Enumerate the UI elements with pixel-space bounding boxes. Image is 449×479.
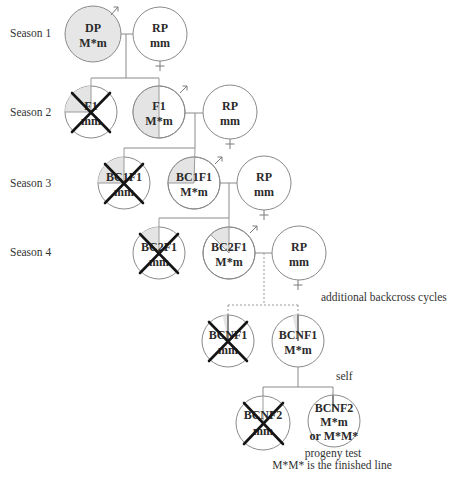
additional-backcross-label: additional backcross cycles xyxy=(321,291,447,304)
node-bcnf2-selected: BCNF2 M*m or M*M* xyxy=(308,395,360,447)
node-line2: M*m xyxy=(320,415,347,429)
season-3-label: Season 3 xyxy=(10,177,51,189)
male-symbol-icon xyxy=(111,7,118,15)
node-line1: RP xyxy=(222,99,238,113)
node-rp-s1: RP mm xyxy=(133,7,187,71)
node-line2: mm xyxy=(150,36,170,50)
node-bc1f1-mm-discarded: BC1F1 mm xyxy=(98,148,150,209)
node-line1: F1 xyxy=(152,99,165,113)
node-line1: RP xyxy=(291,240,307,254)
node-line2: mm xyxy=(254,185,274,199)
node-rp-s2: RP mm xyxy=(203,85,257,149)
female-symbol-icon xyxy=(156,61,165,71)
node-line1: DP xyxy=(85,21,101,35)
node-line2: M*m xyxy=(79,36,106,50)
node-line1: BC2F1 xyxy=(211,240,247,254)
node-bc1f1-het: BC1F1 M*m xyxy=(168,148,222,209)
male-symbol-icon xyxy=(215,157,222,164)
backcross-breeding-diagram: Season 1 Season 2 Season 3 Season 4 DP M… xyxy=(0,0,449,479)
season-1-label: Season 1 xyxy=(10,27,51,39)
node-line1: RP xyxy=(256,170,272,184)
node-line1: BCNF2 xyxy=(315,401,354,415)
season-2-label: Season 2 xyxy=(10,106,51,118)
node-bcnf2-mm-discarded: BCNF2 mm xyxy=(236,396,290,450)
node-line2: M*m xyxy=(284,343,311,357)
female-symbol-icon xyxy=(294,280,303,290)
node-f1-mm-discarded: F1 mm xyxy=(65,78,117,138)
node-line1: BCNF1 xyxy=(279,328,318,342)
male-symbol-icon xyxy=(180,86,187,93)
node-line1: RP xyxy=(152,21,168,35)
node-bcnf1-mm-discarded: BCNF1 mm xyxy=(202,315,254,367)
female-symbol-icon xyxy=(260,210,269,220)
node-line2: M*m xyxy=(145,114,172,128)
finished-line-label: M*M* is the finished line xyxy=(272,459,391,471)
self-label: self xyxy=(336,370,353,382)
node-line1: BC1F1 xyxy=(176,170,212,184)
season-4-label: Season 4 xyxy=(10,246,51,258)
female-symbol-icon xyxy=(226,139,235,149)
node-f1-het: F1 M*m xyxy=(133,78,187,138)
node-line2: mm xyxy=(289,255,309,269)
node-line3: or M*M* xyxy=(310,429,359,443)
node-rp-s3: RP mm xyxy=(237,156,291,220)
node-rp-s4: RP mm xyxy=(272,226,326,290)
node-bc2f1-mm-discarded: BC2F1 mm xyxy=(133,218,185,279)
node-line2: mm xyxy=(220,114,240,128)
node-line2: M*m xyxy=(180,185,207,199)
node-line2: M*m xyxy=(215,255,242,269)
male-symbol-icon xyxy=(250,226,257,233)
node-bcnf1-het: BCNF1 M*m xyxy=(272,315,324,367)
node-bc2f1-het: BC2F1 M*m xyxy=(203,218,257,279)
node-dp: DP M*m xyxy=(65,6,121,62)
